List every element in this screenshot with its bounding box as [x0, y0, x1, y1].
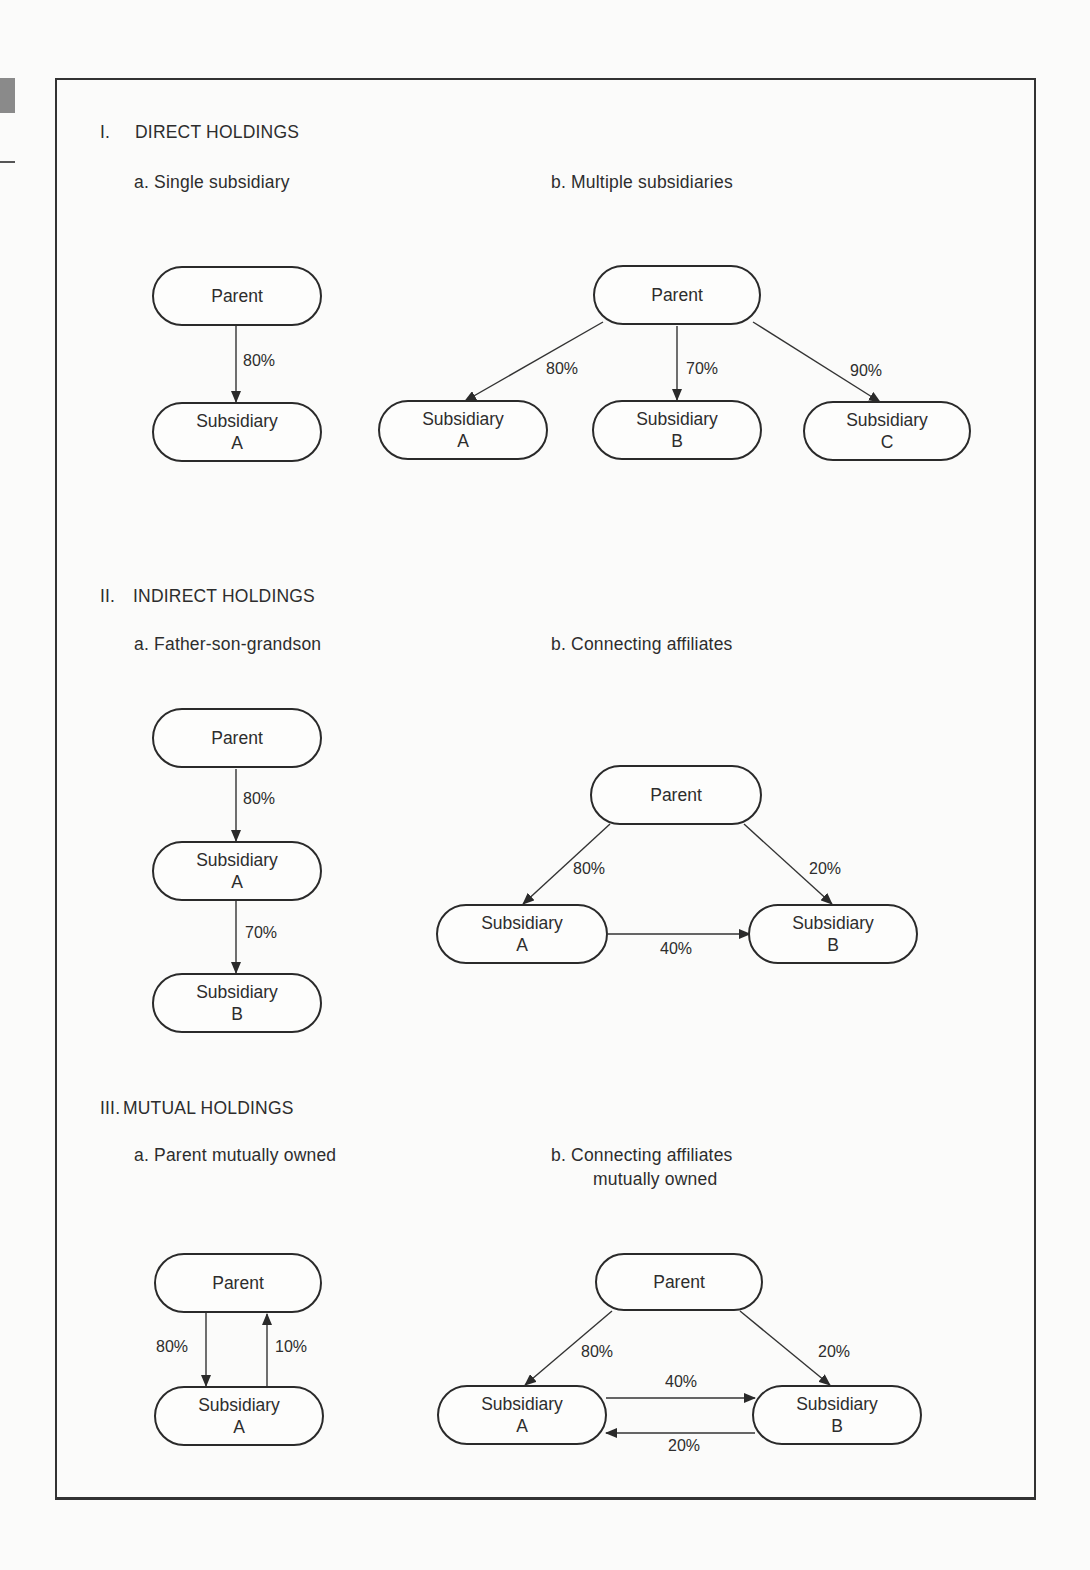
node-IIa-parent: Parent [152, 708, 322, 768]
pct-Ib-parent-to-a: 80% [546, 360, 578, 378]
section-IIIb-label-line2: mutually owned [593, 1169, 717, 1190]
section-IIIa-label: a. Parent mutually owned [134, 1145, 336, 1166]
pct-IIb-parent-to-a: 80% [573, 860, 605, 878]
section-I-title: DIRECT HOLDINGS [135, 122, 299, 143]
section-II-title: INDIRECT HOLDINGS [133, 586, 315, 607]
node-IIIb-parent: Parent [595, 1253, 763, 1311]
node-IIIb-subsidiary-a: SubsidiaryA [437, 1385, 607, 1445]
pct-Ia-parent-to-a: 80% [243, 352, 275, 370]
section-I-numeral: I. [100, 122, 110, 143]
pct-IIb-parent-to-b: 20% [809, 860, 841, 878]
page-edge-rule [0, 161, 15, 163]
section-Ib-label: b. Multiple subsidiaries [551, 172, 733, 193]
node-Ib-subsidiary-a: SubsidiaryA [378, 400, 548, 460]
section-IIIb-label-line1: b. Connecting affiliates [551, 1145, 733, 1166]
node-IIb-parent: Parent [590, 765, 762, 825]
node-IIa-subsidiary-b: SubsidiaryB [152, 973, 322, 1033]
pct-IIIa-a-to-parent: 10% [275, 1338, 307, 1356]
node-Ib-subsidiary-c: SubsidiaryC [803, 401, 971, 461]
pct-Ib-parent-to-b: 70% [686, 360, 718, 378]
pct-IIIb-a-to-b: 40% [665, 1373, 697, 1391]
node-IIIa-parent: Parent [154, 1253, 322, 1313]
pct-IIb-a-to-b: 40% [660, 940, 692, 958]
pct-IIIa-parent-to-a: 80% [156, 1338, 188, 1356]
node-Ib-parent: Parent [593, 265, 761, 325]
section-III-title: MUTUAL HOLDINGS [123, 1098, 294, 1119]
section-IIb-label: b. Connecting affiliates [551, 634, 733, 655]
section-Ia-label: a. Single subsidiary [134, 172, 290, 193]
page-edge-tab [0, 78, 15, 113]
node-IIb-subsidiary-b: SubsidiaryB [748, 904, 918, 964]
pct-Ib-parent-to-c: 90% [850, 362, 882, 380]
pct-IIa-a-to-b: 70% [245, 924, 277, 942]
section-IIa-label: a. Father-son-grandson [134, 634, 321, 655]
section-III-numeral: III. [100, 1098, 120, 1119]
node-IIa-subsidiary-a: SubsidiaryA [152, 841, 322, 901]
pct-IIIb-parent-to-b: 20% [818, 1343, 850, 1361]
node-IIIb-subsidiary-b: SubsidiaryB [752, 1385, 922, 1445]
pct-IIIb-b-to-a: 20% [668, 1437, 700, 1455]
node-Ia-subsidiary-a: SubsidiaryA [152, 402, 322, 462]
section-II-numeral: II. [100, 586, 115, 607]
pct-IIa-parent-to-a: 80% [243, 790, 275, 808]
node-IIb-subsidiary-a: SubsidiaryA [436, 904, 608, 964]
node-Ia-parent: Parent [152, 266, 322, 326]
pct-IIIb-parent-to-a: 80% [581, 1343, 613, 1361]
node-Ib-subsidiary-b: SubsidiaryB [592, 400, 762, 460]
node-IIIa-subsidiary-a: SubsidiaryA [154, 1386, 324, 1446]
